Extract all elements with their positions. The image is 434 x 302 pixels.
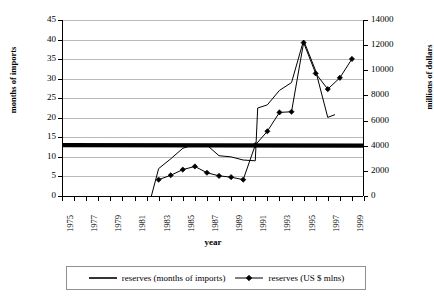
- x-axis-tick-label: 1981: [138, 215, 147, 232]
- y-axis-right-tick-mark: [364, 45, 368, 46]
- y-axis-left-tick-label: 15: [18, 132, 56, 141]
- y-axis-right-tick-label: 8000: [371, 90, 419, 99]
- data-point-marker-diamond: [229, 175, 234, 180]
- x-axis-tick-label: 1991: [259, 215, 268, 232]
- y-axis-left-tick-label: 10: [18, 152, 56, 161]
- y-axis-left-tick-label: 0: [18, 191, 56, 200]
- chart-legend: reserves (months of imports)reserves (US…: [66, 266, 366, 290]
- y-axis-right-tick-mark: [364, 121, 368, 122]
- y-axis-right-tick-mark: [364, 95, 368, 96]
- y-axis-right-tick-label: 6000: [371, 116, 419, 125]
- y-axis-right-tick-mark: [364, 20, 368, 21]
- x-axis-tick-label: 1999: [356, 215, 365, 232]
- y-axis-right-tick-label: 0: [371, 191, 419, 200]
- x-axis-tick-label: 1989: [235, 215, 244, 232]
- y-axis-left-tick-label: 35: [18, 54, 56, 63]
- y-axis-left-tick-label: 30: [18, 74, 56, 83]
- x-axis-tick-label: 1987: [211, 215, 220, 232]
- data-series-layer: [62, 20, 364, 196]
- data-point-marker-diamond: [168, 173, 173, 178]
- y-axis-left-tick-label: 40: [18, 35, 56, 44]
- x-axis-tick-label: 1979: [114, 215, 123, 232]
- y-axis-right-tick-label: 14000: [371, 15, 419, 24]
- y-axis-left-tick-label: 20: [18, 113, 56, 122]
- y-axis-right-tick-mark: [364, 146, 368, 147]
- y-axis-right-tick-mark: [364, 70, 368, 71]
- x-axis-tick-label: 1983: [163, 215, 172, 232]
- x-axis-tick-label: 1985: [187, 215, 196, 232]
- line-swatch-icon: [88, 273, 118, 283]
- y-axis-right-tick-label: 12000: [371, 40, 419, 49]
- data-point-marker-diamond: [192, 164, 197, 169]
- data-point-marker-diamond: [349, 56, 354, 61]
- diamond-marker-icon: [247, 275, 253, 281]
- data-point-marker-diamond: [277, 110, 282, 115]
- y-axis-left-tick-label: 5: [18, 171, 56, 180]
- x-axis-tick-label: 1975: [66, 215, 75, 232]
- x-axis-tick-label: 1993: [283, 215, 292, 232]
- x-axis-tick-label: 1977: [90, 215, 99, 232]
- legend-item-label: reserves (US $ mlns): [268, 273, 344, 283]
- y-axis-right-tick-label: 2000: [371, 166, 419, 175]
- series-line-months-of-imports: [151, 40, 335, 196]
- data-point-marker-diamond: [156, 177, 161, 182]
- y-axis-left-tick-label: 25: [18, 93, 56, 102]
- data-point-marker-diamond: [241, 177, 246, 182]
- legend-item-label: reserves (months of imports): [122, 273, 226, 283]
- data-point-marker-diamond: [216, 173, 221, 178]
- legend-item[interactable]: reserves (months of imports): [88, 273, 226, 283]
- x-axis-title: year: [62, 237, 364, 247]
- line-diamond-swatch-icon: [234, 273, 264, 283]
- y-axis-left-title: months of imports: [8, 25, 18, 135]
- y-axis-right-title: millions of dollars: [424, 22, 434, 132]
- x-axis-tick-label: 1997: [332, 215, 341, 232]
- data-point-marker-diamond: [204, 170, 209, 175]
- y-axis-right-tick-mark: [364, 171, 368, 172]
- x-axis-tick-label: 1995: [308, 215, 317, 232]
- legend-item[interactable]: reserves (US $ mlns): [234, 273, 344, 283]
- data-point-marker-diamond: [289, 109, 294, 114]
- data-point-marker-diamond: [180, 167, 185, 172]
- y-axis-left-tick-label: 45: [18, 15, 56, 24]
- y-axis-right-tick-label: 4000: [371, 141, 419, 150]
- x-axis-tick-labels: 1975197719791981198319851987198919911993…: [0, 200, 432, 234]
- y-axis-right-tick-label: 10000: [371, 65, 419, 74]
